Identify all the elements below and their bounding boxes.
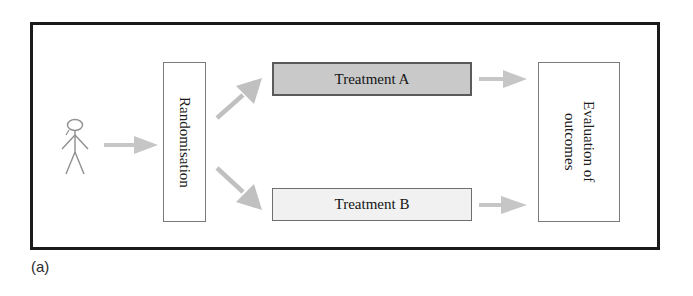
node-treatment-b: Treatment B xyxy=(272,188,472,221)
node-treatment-a: Treatment A xyxy=(272,62,472,96)
node-evaluation-label-line1: Evaluation of xyxy=(579,101,598,182)
node-evaluation-label: Evaluation of outcomes xyxy=(560,101,598,182)
node-randomisation: Randomisation xyxy=(163,62,206,222)
stick-figure-person-icon xyxy=(58,118,92,176)
node-evaluation-label-line2: outcomes xyxy=(560,101,579,182)
node-treatment-b-label: Treatment B xyxy=(335,196,410,213)
figure-canvas: Randomisation Treatment A Treatment B Ev… xyxy=(0,0,693,296)
node-randomisation-label: Randomisation xyxy=(176,97,193,188)
figure-caption: (a) xyxy=(31,258,49,275)
node-evaluation-of-outcomes: Evaluation of outcomes xyxy=(538,62,620,222)
node-treatment-a-label: Treatment A xyxy=(335,71,410,88)
